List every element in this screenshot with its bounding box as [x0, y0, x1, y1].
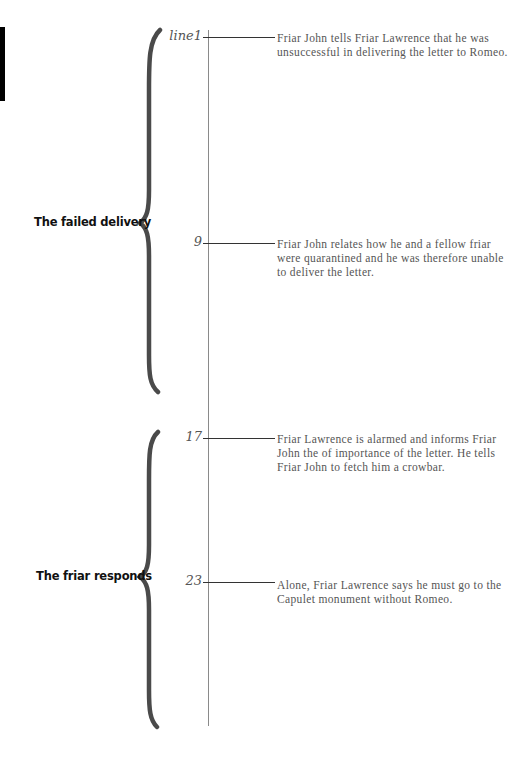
connector-4	[203, 582, 275, 583]
brace-failed-delivery	[140, 30, 160, 392]
line-number-9: 9	[142, 234, 202, 249]
section-label-failed-delivery: The failed delivery	[34, 215, 151, 229]
event-text-1: Friar John tells Friar Lawrence that he …	[277, 31, 512, 59]
line-number-23: 23	[142, 573, 202, 588]
connector-3	[203, 438, 275, 439]
event-text-3: Friar Lawrence is alarmed and informs Fr…	[277, 432, 512, 474]
event-text-4: Alone, Friar Lawrence says he must go to…	[277, 578, 512, 606]
connector-2	[203, 243, 275, 244]
section-label-friar-responds: The friar responds	[36, 569, 152, 583]
connector-1	[203, 37, 275, 38]
line-number-1: line1	[142, 28, 202, 43]
line-number-17: 17	[142, 429, 202, 444]
timeline-axis	[208, 30, 209, 726]
event-text-2: Friar John relates how he and a fellow f…	[277, 237, 512, 279]
section-braces	[0, 0, 518, 763]
